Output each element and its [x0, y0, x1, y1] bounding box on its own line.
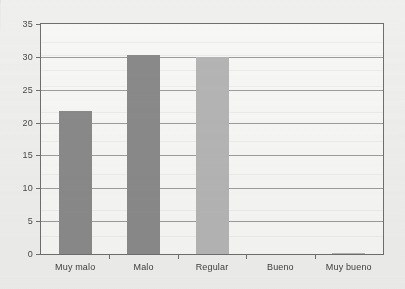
y-tick-mark — [36, 188, 41, 189]
y-tick-label: 10 — [23, 183, 33, 193]
y-tick-mark — [36, 155, 41, 156]
bar — [196, 57, 229, 254]
y-tick-label: 15 — [23, 150, 33, 160]
y-tick-label: 30 — [23, 52, 33, 62]
y-tick-mark — [36, 221, 41, 222]
x-tick-label: Muy malo — [55, 262, 95, 272]
x-tick-label: Regular — [196, 262, 229, 272]
y-tick-label: 25 — [23, 85, 33, 95]
y-tick-mark — [36, 254, 41, 255]
x-tick-mark — [246, 254, 247, 259]
x-tick-label: Bueno — [267, 262, 294, 272]
y-tick-mark — [36, 57, 41, 58]
y-tick-mark — [36, 123, 41, 124]
x-tick-label: Malo — [134, 262, 154, 272]
bar-chart-figure: 05101520253035 Muy maloMaloRegularBuenoM… — [0, 0, 405, 289]
plot-area: 05101520253035 Muy maloMaloRegularBuenoM… — [40, 23, 384, 255]
x-tick-mark — [109, 254, 110, 259]
x-tick-label: Muy bueno — [326, 262, 372, 272]
y-tick-label: 0 — [28, 249, 33, 259]
bar — [59, 111, 92, 254]
y-tick-label: 5 — [28, 216, 33, 226]
x-tick-mark — [315, 254, 316, 259]
x-tick-mark — [178, 254, 179, 259]
bar — [332, 253, 365, 254]
bar — [127, 55, 160, 254]
y-tick-mark — [36, 90, 41, 91]
y-tick-label: 35 — [23, 19, 33, 29]
y-tick-label: 20 — [23, 118, 33, 128]
y-tick-mark — [36, 24, 41, 25]
